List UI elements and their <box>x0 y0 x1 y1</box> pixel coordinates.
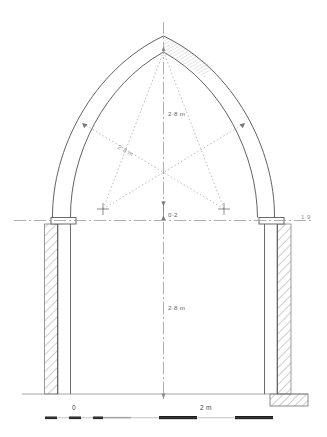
centre-offset-dimension <box>161 201 165 220</box>
arch-intrados <box>70 52 257 218</box>
label-centre-offset: 0·2 <box>168 211 178 218</box>
right-pier-shaft <box>265 224 278 394</box>
label-springing-right: 1·9 <box>301 213 311 220</box>
right-pier-masonry-hatch <box>277 224 291 394</box>
lower-height-dimension-arrow <box>162 394 166 400</box>
left-pier-shaft <box>58 224 71 394</box>
right-arch-centre-cross <box>218 203 230 215</box>
left-arch-centre-cross <box>97 203 109 215</box>
scale-bar-end-label: 2 m <box>200 404 212 411</box>
arch-section-drawing <box>0 0 327 437</box>
scale-bar <box>45 416 273 419</box>
right-pier-footing <box>270 394 308 406</box>
left-pier-masonry-hatch <box>45 224 59 394</box>
scale-bar-start-label: 0 <box>72 404 76 411</box>
keystone-hatch <box>164 36 214 78</box>
label-lower-height: 2·8 m <box>168 304 185 311</box>
label-upper-rise: 2·8 m <box>168 110 185 117</box>
